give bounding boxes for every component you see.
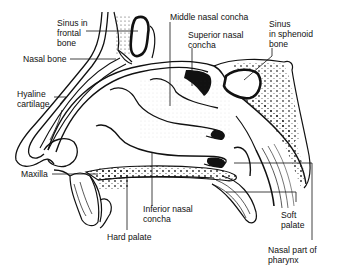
label-inferior-nasal-concha: Inferior nasal concha [143,204,193,224]
label-middle-nasal-concha: Middle nasal concha [170,12,248,22]
label-sinus-frontal: Sinus in frontal bone [57,18,88,48]
label-sinus-sphenoid: Sinus in sphenoid bone [269,19,313,49]
soft-palate-shape [212,176,256,223]
label-nasal-part-of-pharynx: Nasal part of pharynx [268,245,317,265]
label-maxilla: Maxilla [21,169,48,179]
label-hyaline-cartilage: Hyaline cartilage [17,89,49,109]
label-hard-palate: Hard palate [107,232,151,242]
label-superior-nasal-concha: Superior nasal concha [188,30,243,50]
frontal-sinus [131,17,149,56]
label-soft-palate: Soft palate [281,210,304,230]
label-nasal-bone: Nasal bone [23,54,66,64]
